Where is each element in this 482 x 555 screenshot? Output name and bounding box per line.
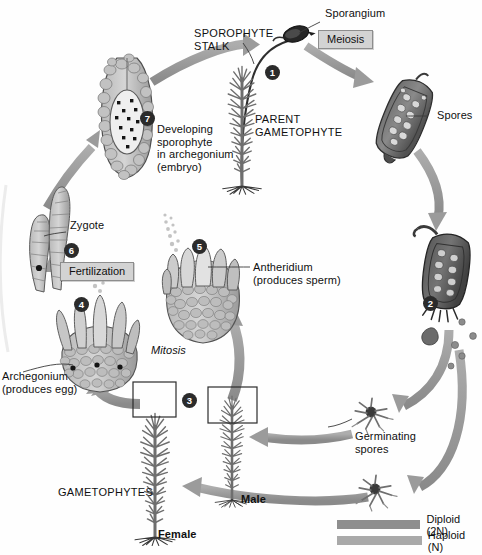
legend-swatch-haploid	[337, 536, 422, 545]
step-badge-6: 6	[64, 243, 79, 258]
process-box-meiosis: Meiosis	[318, 30, 373, 49]
label-spores: Spores	[437, 109, 472, 122]
step-badge-2: 2	[423, 296, 438, 311]
legend: Diploid (2N) Haploid (N)	[337, 518, 477, 550]
label-sporophyte-stalk: SPOROPHYTE STALK	[194, 27, 273, 52]
step-badge-1: 1	[265, 65, 280, 80]
step-badge-3: 3	[182, 393, 197, 408]
label-germinating-spores: Germinating spores	[355, 430, 416, 455]
label-female: Female	[158, 528, 197, 541]
label-archegonium: Archegonium (produces egg)	[2, 370, 77, 395]
label-male: Male	[241, 493, 266, 506]
label-developing-sporophyte: Developing sporophyte in archegonium (em…	[157, 123, 234, 173]
legend-row-haploid: Haploid (N)	[337, 534, 477, 547]
label-antheridium: Antheridium (produces sperm)	[253, 261, 341, 286]
process-box-fertilization: Fertilization	[60, 262, 134, 281]
label-sporangium: Sporangium	[325, 7, 385, 20]
legend-label-haploid: Haploid (N)	[428, 529, 477, 553]
moss-life-cycle-diagram: Sporangium SPOROPHYTE STALK PARENT GAMET…	[0, 0, 482, 555]
legend-swatch-diploid	[337, 520, 420, 529]
label-zygote: Zygote	[70, 219, 104, 232]
label-parent-gametophyte: PARENT GAMETOPHYTE	[255, 113, 342, 138]
step-badge-7: 7	[140, 111, 155, 126]
label-mitosis: Mitosis	[151, 344, 186, 357]
step-badge-4: 4	[74, 297, 89, 312]
step-badge-5: 5	[192, 239, 207, 254]
label-gametophytes: GAMETOPHYTES	[58, 486, 153, 499]
